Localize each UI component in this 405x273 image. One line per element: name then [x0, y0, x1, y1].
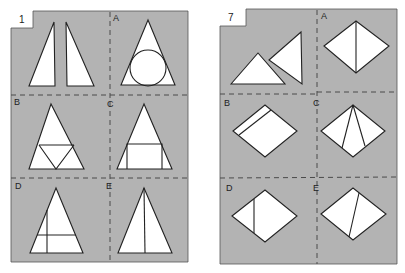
option-label: B [14, 97, 20, 107]
puzzle-card-1: 1 A B C D [11, 11, 188, 262]
option-label: A [321, 11, 327, 21]
option-label: E [313, 183, 319, 193]
option-label: E [106, 181, 112, 191]
option-label: C [107, 99, 114, 109]
option-label: D [15, 181, 22, 191]
option-label: A [113, 13, 119, 23]
option-label: B [224, 98, 230, 108]
puzzle-sheet: 1 A B C D [0, 0, 405, 273]
puzzle-number: 1 [19, 14, 25, 25]
option-label: D [226, 183, 233, 193]
card-background [11, 11, 188, 262]
puzzle-number: 7 [228, 12, 234, 23]
puzzle-card-7: 7 A B C D [220, 9, 397, 264]
option-label: C [313, 98, 320, 108]
